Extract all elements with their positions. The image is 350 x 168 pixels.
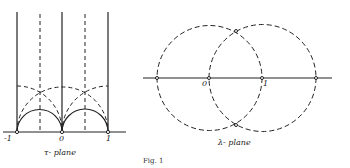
figure-caption: Fig. 1: [143, 157, 163, 165]
lambda-tick-1: 1: [263, 79, 268, 88]
lambda-plane-label: λ- plane: [218, 138, 251, 147]
tick-0: 0: [59, 134, 64, 143]
tau-plane-label: τ- plane: [44, 148, 76, 157]
figure-drawing: [0, 0, 350, 168]
lambda-tick-0: 0: [202, 79, 207, 88]
tick-minus1: -1: [4, 134, 12, 143]
tick-1: 1: [106, 134, 111, 143]
